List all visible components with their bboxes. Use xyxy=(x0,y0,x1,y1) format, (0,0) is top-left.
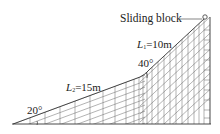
angle-40-label: 40° xyxy=(138,58,153,69)
L2-value: =15m xyxy=(75,81,101,93)
sliding-block-label: Sliding block xyxy=(120,13,182,25)
L2-label: L2=15m xyxy=(66,82,101,93)
slope-mesh xyxy=(13,0,220,134)
sliding-block-icon xyxy=(203,15,207,19)
L1-value: =10m xyxy=(146,38,172,50)
angle-arc-20 xyxy=(37,121,38,125)
angle-20-label: 20° xyxy=(27,105,42,116)
L1-label: L1=10m xyxy=(137,39,172,50)
